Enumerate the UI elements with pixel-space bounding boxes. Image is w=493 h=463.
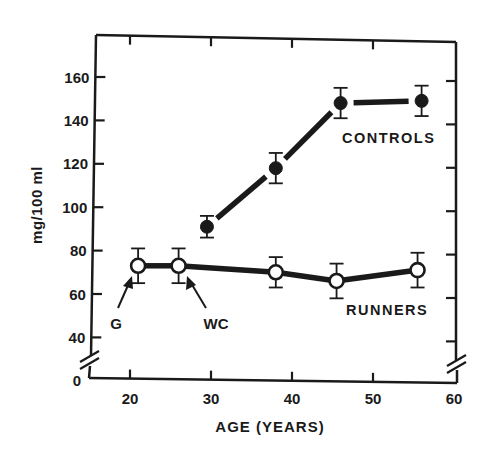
y-tick-label: 140	[64, 112, 89, 129]
y-axis-left	[91, 35, 96, 356]
y-zero-label: 0	[73, 372, 81, 389]
y-axis-title: mg/100 ml	[28, 166, 45, 244]
open-circle-marker-icon	[131, 259, 145, 273]
series-layer	[131, 86, 429, 299]
y-tick-label: 60	[69, 286, 86, 303]
series-runners	[131, 248, 424, 298]
annotation-wc: WC	[186, 276, 229, 332]
x-tick-label: 40	[284, 390, 301, 407]
series-line-segment	[283, 273, 330, 280]
series-label-runners: RUNNERS	[346, 302, 428, 318]
y-tick-label: 160	[64, 69, 89, 86]
x-axis-title: AGE (YEARS)	[215, 418, 324, 435]
annotation-label-g: G	[110, 315, 122, 332]
plot-frame	[89, 35, 457, 383]
filled-circle-marker-icon	[334, 97, 347, 110]
top-border	[96, 35, 456, 42]
series-line-segment	[343, 271, 410, 280]
series-label-controls: CONTROLS	[342, 130, 435, 146]
series-controls	[200, 86, 429, 238]
filled-circle-marker-icon	[269, 162, 282, 175]
filled-circle-marker-icon	[200, 220, 213, 233]
arrowhead-g-icon	[123, 276, 133, 289]
open-circle-marker-icon	[172, 259, 186, 273]
series-line-segment	[217, 177, 266, 219]
open-circle-marker-icon	[269, 265, 283, 279]
open-circle-marker-icon	[330, 274, 344, 288]
chart: 2030405060406080100120140160 0 mg/100 ml…	[0, 0, 493, 463]
open-circle-marker-icon	[411, 263, 425, 277]
ticks	[91, 36, 456, 382]
x-tick-label: 30	[203, 390, 220, 407]
series-line-segment	[186, 266, 269, 272]
y-tick-label: 80	[70, 242, 87, 259]
annotation-label-wc: WC	[204, 315, 229, 332]
y-tick-label: 120	[63, 155, 88, 172]
arrow-wc-icon	[191, 283, 206, 308]
series-line-segment	[354, 101, 409, 102]
y-axis-left-lower	[89, 366, 90, 378]
tick-labels: 2030405060406080100120140160	[62, 69, 462, 408]
x-tick-label: 60	[446, 390, 463, 407]
series-line-segment	[285, 112, 331, 159]
filled-circle-marker-icon	[415, 94, 428, 107]
x-tick-label: 20	[122, 390, 139, 407]
x-tick-label: 50	[365, 390, 382, 407]
y-tick-label: 40	[69, 329, 86, 346]
x-axis	[89, 378, 457, 383]
y-tick-label: 100	[62, 199, 87, 216]
annotation-g: G	[110, 276, 133, 332]
